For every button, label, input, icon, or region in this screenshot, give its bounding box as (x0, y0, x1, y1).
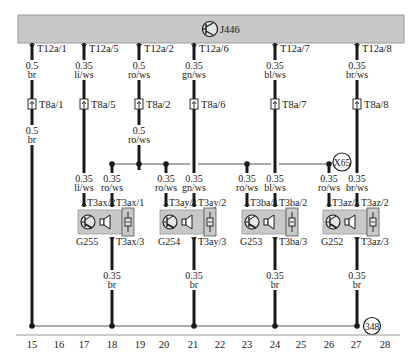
svg-text:bl/ws: bl/ws (264, 69, 286, 80)
svg-text:li/ws: li/ws (74, 69, 94, 80)
pin-label: T3ay/1 (169, 197, 197, 208)
wire-label: 0.5ro/ws (125, 125, 153, 145)
wire-label: 0.35gn/ws (182, 60, 206, 80)
sensor-id-label: G254 (158, 236, 180, 247)
svg-text:ro/ws: ro/ws (101, 182, 123, 193)
svg-text:ro/ws: ro/ws (155, 182, 177, 193)
pin-label: T3ax/1 (116, 197, 144, 208)
svg-text:br/ws: br/ws (346, 182, 368, 193)
column-number: 16 (54, 339, 65, 350)
connector-mid-T8a-7[interactable]: T8a/7 (271, 99, 307, 110)
svg-text:br: br (271, 279, 280, 290)
pin-label: T3ay/2 (198, 197, 226, 208)
svg-text:br: br (28, 134, 37, 145)
sensor-id-label: G255 (76, 236, 98, 247)
column-number: 19 (135, 339, 146, 350)
connector-mid-T8a-6[interactable]: T8a/6 (190, 99, 226, 110)
pin-label: T8a/7 (282, 99, 307, 110)
pin-label: T12a/7 (280, 43, 310, 54)
svg-text:li/ws: li/ws (74, 182, 94, 193)
svg-text:br: br (190, 279, 199, 290)
svg-text:br: br (108, 279, 117, 290)
control-unit-label: J446 (220, 24, 240, 35)
pin-label: T3az/2 (361, 197, 389, 208)
connector-top-T12a-6[interactable]: T12a/6 (192, 43, 229, 54)
splice-label: X65 (334, 158, 351, 168)
pin-label: T3ba/2 (279, 197, 307, 208)
column-number: 15 (27, 339, 38, 350)
pin-label: T8a/8 (364, 99, 389, 110)
wire-label: 0.35br (263, 270, 287, 290)
column-number: 28 (380, 339, 391, 350)
wire-label: 0.35bl/ws (263, 60, 287, 80)
svg-text:ro/ws: ro/ws (236, 182, 258, 193)
ground-bus (29, 323, 360, 329)
wire-label: 0.35bl/ws (262, 173, 288, 193)
transistor-icon (326, 215, 340, 229)
wire-label: 0.35ro/ws (234, 173, 260, 193)
column-number: 27 (351, 339, 362, 350)
sensor-g252[interactable] (323, 208, 379, 236)
pin-label: T8a/6 (201, 99, 226, 110)
sensor-id-label: G253 (240, 236, 262, 247)
transistor-icon (81, 215, 95, 229)
svg-text:gn/ws: gn/ws (182, 182, 206, 193)
connector-mid-T8a-8[interactable]: T8a/8 (353, 99, 389, 110)
pin-label: T8a/2 (146, 99, 171, 110)
splice-x65[interactable]: X65 (333, 153, 351, 171)
wire-label: 0.5br (18, 125, 46, 145)
svg-text:bl/ws: bl/ws (264, 182, 286, 193)
sensor-id-label: G252 (321, 236, 343, 247)
column-number: 23 (242, 339, 253, 350)
connector-mid-T8a-5[interactable]: T8a/5 (80, 99, 116, 110)
transistor-icon (245, 215, 259, 229)
svg-text:ro/ws: ro/ws (128, 134, 150, 145)
column-number: 25 (296, 339, 307, 350)
connector-mid-T8a-1[interactable]: T8a/1 (28, 99, 64, 110)
connector-mid-T8a-2[interactable]: T8a/2 (135, 99, 171, 110)
pin-label: T3ba/3 (279, 236, 307, 247)
connector-top-T12a-7[interactable]: T12a/7 (273, 43, 310, 54)
dynamic-layer: T12a/10.5brT12a/50.35li/wsT12a/20.5ro/ws… (18, 43, 392, 350)
svg-text:br: br (353, 279, 362, 290)
pin-label: T12a/1 (37, 43, 67, 54)
wire-label: 0.35br/ws (345, 60, 369, 80)
pin-label: T12a/6 (199, 43, 229, 54)
svg-text:gn/ws: gn/ws (182, 69, 206, 80)
column-number: 17 (79, 339, 90, 350)
wire-label: 0.35br (182, 270, 206, 290)
wire-label: 0.35ro/ws (316, 173, 342, 193)
svg-text:ro/ws: ro/ws (318, 182, 340, 193)
pin-label: T3ay/3 (198, 236, 226, 247)
pin-label: T3ax/3 (116, 236, 144, 247)
pin-label: T3az/1 (332, 197, 360, 208)
connector-top-T12a-1[interactable]: T12a/1 (30, 43, 67, 54)
column-number: 26 (324, 339, 335, 350)
sensor-g255[interactable] (78, 208, 134, 236)
column-number: 18 (107, 339, 118, 350)
pin-label: T3ax/2 (87, 197, 115, 208)
wire-label: 0.5br (20, 60, 44, 80)
wire-label: 0.35br (345, 270, 369, 290)
pin-label: T12a/2 (144, 43, 174, 54)
wiring-diagram: J446 X65 (0, 0, 416, 359)
sensor-g254[interactable] (160, 208, 216, 236)
connector-top-T12a-5[interactable]: T12a/5 (82, 43, 119, 54)
ground-point-label: 348 (365, 322, 380, 332)
wire-label: 0.35gn/ws (181, 173, 207, 193)
connector-top-T12a-2[interactable]: T12a/2 (137, 43, 174, 54)
ground-point-348[interactable]: 348 (364, 318, 381, 335)
pin-label: T3ba/1 (250, 197, 278, 208)
column-number: 22 (215, 339, 226, 350)
connector-top-T12a-8[interactable]: T12a/8 (355, 43, 392, 54)
sensor-g253[interactable] (242, 208, 298, 236)
svg-text:br/ws: br/ws (346, 69, 368, 80)
pin-label: T12a/5 (89, 43, 119, 54)
pin-label: T3az/3 (361, 236, 389, 247)
pin-label: T12a/8 (362, 43, 392, 54)
pin-label: T8a/1 (39, 99, 64, 110)
column-number: 24 (270, 339, 281, 350)
wire-label: 0.35br/ws (344, 173, 370, 193)
control-unit-j446[interactable]: J446 (18, 15, 404, 43)
svg-text:ro/ws: ro/ws (128, 69, 150, 80)
